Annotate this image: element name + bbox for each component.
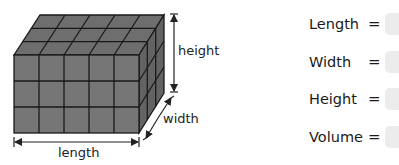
rectangular-prism-diagram xyxy=(0,0,300,165)
cube-front-face xyxy=(14,55,139,133)
height-label: height xyxy=(178,43,219,58)
volume-field-label: Volume xyxy=(309,129,368,145)
height-row: Height = xyxy=(309,88,399,110)
equals-sign: = xyxy=(368,90,385,108)
length-label: length xyxy=(58,145,99,160)
equals-sign: = xyxy=(368,53,385,71)
volume-input[interactable] xyxy=(385,126,399,148)
height-input[interactable] xyxy=(385,88,399,110)
height-field-label: Height xyxy=(309,91,368,107)
equals-sign: = xyxy=(368,128,385,146)
width-field-label: Width xyxy=(309,54,368,70)
cube-top-face xyxy=(14,15,164,55)
length-row: Length = xyxy=(309,13,399,35)
width-label: width xyxy=(163,111,199,126)
height-dimension xyxy=(170,14,178,92)
width-row: Width = xyxy=(309,51,399,73)
length-field-label: Length xyxy=(309,16,368,32)
width-input[interactable] xyxy=(385,51,399,73)
length-input[interactable] xyxy=(385,13,399,35)
volume-row: Volume = xyxy=(309,126,399,148)
equals-sign: = xyxy=(368,15,385,33)
